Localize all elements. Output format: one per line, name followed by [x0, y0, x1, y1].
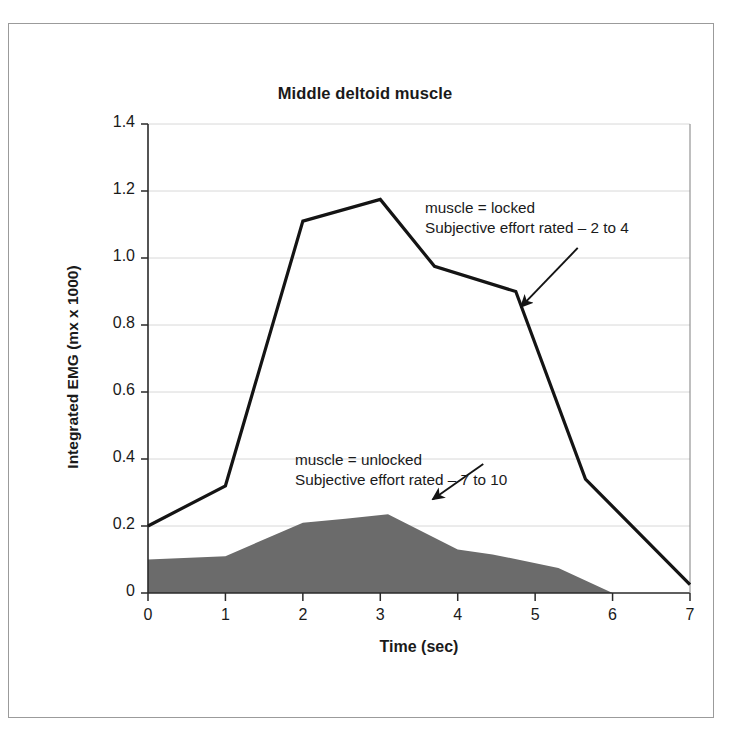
y-tick-label: 1.0 — [89, 247, 135, 265]
chart-title: Middle deltoid muscle — [0, 84, 730, 103]
x-tick-label: 7 — [675, 606, 705, 624]
y-tick-label: 0.6 — [89, 381, 135, 399]
x-tick-label: 5 — [520, 606, 550, 624]
x-tick-label: 4 — [443, 606, 473, 624]
y-tick-label: 0.4 — [89, 448, 135, 466]
axis-lines — [148, 124, 690, 593]
y-tick-label: 1.4 — [89, 113, 135, 131]
figure-root: Middle deltoid muscle Time (sec) Integra… — [0, 0, 730, 740]
y-axis-title: Integrated EMG (mx x 1000) — [64, 157, 82, 577]
x-tick-label: 0 — [133, 606, 163, 624]
x-axis-title: Time (sec) — [148, 638, 690, 656]
y-tick-label: 1.2 — [89, 180, 135, 198]
x-tick-label: 3 — [365, 606, 395, 624]
x-tick-label: 1 — [210, 606, 240, 624]
x-tick-label: 2 — [288, 606, 318, 624]
y-tick-label: 0.8 — [89, 314, 135, 332]
annotation-locked-line-2: Subjective effort rated – 2 to 4 — [425, 218, 629, 238]
chart-plot-area — [0, 0, 730, 740]
annotation-unlocked-line-1: muscle = unlocked — [295, 450, 507, 470]
annotation-muscle-unlocked: muscle = unlocked Subjective effort rate… — [295, 450, 507, 491]
y-tick-label: 0.2 — [89, 515, 135, 533]
x-tick-label: 6 — [598, 606, 628, 624]
annotation-locked-line-1: muscle = locked — [425, 198, 629, 218]
y-tick-label: 0 — [89, 582, 135, 600]
annotation-muscle-locked: muscle = locked Subjective effort rated … — [425, 198, 629, 239]
annotation-unlocked-line-2: Subjective effort rated – 7 to 10 — [295, 470, 507, 490]
